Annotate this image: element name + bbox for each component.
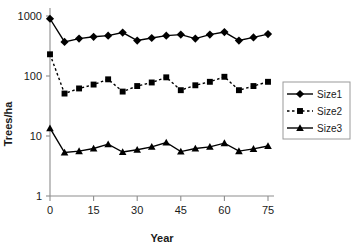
data-point-square — [163, 74, 169, 80]
x-tick-label: 15 — [87, 204, 99, 216]
y-tick-label: 10 — [30, 130, 42, 142]
data-point-triangle — [221, 139, 229, 146]
data-point-square — [134, 83, 140, 89]
data-point-diamond — [75, 35, 83, 43]
x-axis-title: Year — [150, 232, 174, 244]
series-size2 — [47, 51, 271, 96]
data-point-diamond — [191, 35, 199, 43]
data-point-diamond — [133, 36, 141, 44]
x-tick-label: 0 — [47, 204, 53, 216]
data-point-diamond — [249, 33, 257, 41]
data-point-square — [178, 87, 184, 93]
data-point-diamond — [264, 30, 272, 38]
legend-label: Size3 — [317, 123, 342, 134]
data-point-square — [236, 87, 242, 93]
data-point-square — [91, 82, 97, 88]
legend-label: Size1 — [317, 89, 342, 100]
data-point-diamond — [220, 28, 228, 36]
data-point-diamond — [177, 30, 185, 38]
data-point-square — [207, 79, 213, 85]
data-point-triangle — [46, 124, 54, 131]
data-point-square — [297, 108, 303, 114]
series-size3 — [46, 124, 272, 155]
legend-group: Size1Size2Size3 — [283, 82, 350, 139]
data-point-square — [221, 74, 227, 80]
x-tick-label: 75 — [262, 204, 274, 216]
data-point-diamond — [148, 34, 156, 42]
data-point-square — [105, 76, 111, 82]
chart-figure: 110100100001530456075 Size1Size2Size3 Tr… — [0, 0, 356, 247]
data-point-square — [76, 86, 82, 92]
x-tick-label: 30 — [131, 204, 143, 216]
data-point-triangle — [162, 139, 170, 146]
data-point-square — [251, 83, 257, 89]
series-line — [50, 54, 268, 93]
series-group — [46, 15, 272, 156]
data-point-triangle — [104, 140, 112, 147]
data-point-square — [192, 82, 198, 88]
data-point-diamond — [162, 32, 170, 40]
x-tick-label: 45 — [175, 204, 187, 216]
data-point-diamond — [206, 30, 214, 38]
data-point-diamond — [60, 38, 68, 46]
data-point-square — [120, 89, 126, 95]
series-line — [50, 128, 268, 152]
series-size1 — [46, 15, 272, 46]
data-point-diamond — [119, 28, 127, 36]
legend-label: Size2 — [317, 106, 342, 117]
data-point-square — [47, 51, 53, 57]
data-point-square — [265, 79, 271, 85]
data-point-square — [62, 91, 68, 97]
x-tick-label: 60 — [218, 204, 230, 216]
data-point-triangle — [264, 142, 272, 149]
y-axis-title: Trees/ha — [2, 101, 14, 147]
data-point-diamond — [104, 32, 112, 40]
data-point-diamond — [90, 33, 98, 41]
y-tick-label: 1000 — [18, 10, 42, 22]
data-point-diamond — [235, 36, 243, 44]
data-point-square — [149, 80, 155, 86]
y-tick-label: 100 — [24, 70, 42, 82]
y-tick-label: 1 — [36, 190, 42, 202]
